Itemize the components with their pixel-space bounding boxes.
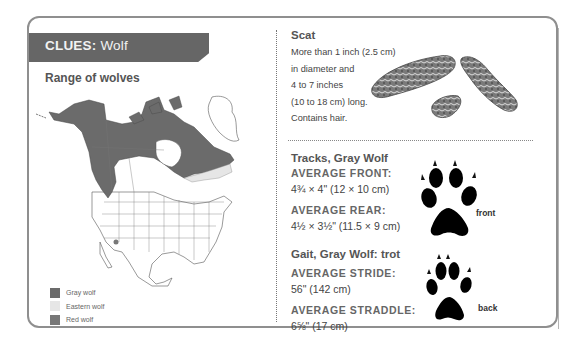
legend-item-gray-wolf: Gray wolf bbox=[50, 286, 105, 300]
rear-label: AVERAGE REAR: bbox=[291, 204, 386, 216]
front-value: 4¾ × 4" (12 × 10 cm) bbox=[291, 183, 389, 195]
stride-value: 56" (142 cm) bbox=[291, 283, 351, 295]
front-label: AVERAGE FRONT: bbox=[291, 167, 392, 179]
tracks-title: Tracks, Gray Wolf bbox=[291, 152, 388, 164]
range-map bbox=[34, 92, 274, 287]
legend-label: Red wolf bbox=[66, 316, 93, 323]
gray-wolf-swatch bbox=[50, 288, 60, 298]
section-divider bbox=[288, 140, 533, 141]
red-wolf-swatch bbox=[50, 315, 60, 325]
straddle-value: 6⅝" (17 cm) bbox=[291, 320, 348, 332]
legend-label: Gray wolf bbox=[66, 289, 96, 296]
legend-item-eastern-wolf: Eastern wolf bbox=[50, 300, 105, 314]
stride-label: AVERAGE STRIDE: bbox=[291, 267, 396, 279]
column-divider bbox=[276, 30, 277, 322]
scat-title: Scat bbox=[291, 29, 315, 41]
eastern-wolf-swatch bbox=[50, 301, 60, 311]
legend-item-red-wolf: Red wolf bbox=[50, 313, 105, 327]
front-print-label: front bbox=[476, 208, 495, 218]
back-print-label: back bbox=[478, 303, 497, 313]
title-prefix: CLUES: bbox=[45, 38, 96, 53]
gait-title: Gait, Gray Wolf: trot bbox=[291, 248, 400, 260]
rear-value: 4½ × 3½" (11.5 × 9 cm) bbox=[291, 220, 400, 232]
title-subject: Wolf bbox=[100, 38, 128, 53]
legend-label: Eastern wolf bbox=[66, 303, 105, 310]
map-legend: Gray wolf Eastern wolf Red wolf bbox=[50, 286, 105, 327]
front-paw-print-icon bbox=[420, 158, 480, 238]
card-title: CLUES: Wolf bbox=[45, 38, 128, 53]
scat-illustration bbox=[370, 48, 535, 123]
straddle-label: AVERAGE STRADDLE: bbox=[291, 304, 416, 316]
range-title: Range of wolves bbox=[45, 71, 140, 85]
back-paw-print-icon bbox=[426, 253, 474, 321]
